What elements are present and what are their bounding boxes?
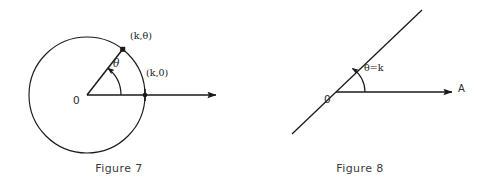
figure8-label-origin: 0 bbox=[324, 94, 331, 105]
figure7-group bbox=[29, 37, 216, 153]
figure7-point-k0-dot bbox=[143, 93, 148, 98]
figure7-label-point-ktheta: (k,θ) bbox=[130, 31, 152, 41]
figure7-label-origin: 0 bbox=[73, 95, 80, 106]
figure-canvas: (k,θ) (k,0) θ 0 Figure 7 θ=k 0 A Figure … bbox=[0, 0, 488, 184]
diagram-vector-layer bbox=[0, 0, 488, 184]
figure8-label-axis-a: A bbox=[458, 84, 465, 94]
figure7-point-ktheta-dot bbox=[120, 47, 125, 52]
figure8-label-theta-equals-k: θ=k bbox=[364, 63, 383, 73]
figure8-caption: Figure 8 bbox=[285, 162, 435, 175]
figure7-label-point-k0: (k,0) bbox=[146, 68, 168, 78]
figure7-caption: Figure 7 bbox=[44, 162, 194, 175]
figure7-label-theta: θ bbox=[113, 58, 119, 69]
figure7-angle-arc bbox=[108, 68, 121, 95]
